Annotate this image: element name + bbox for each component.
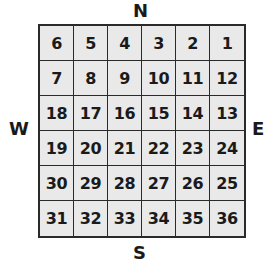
grid-cell: 5	[74, 26, 108, 61]
grid-cell: 19	[40, 131, 74, 166]
grid-cell: 18	[40, 96, 74, 131]
grid-cell: 23	[176, 131, 210, 166]
grid-cell: 30	[40, 166, 74, 201]
grid-cell: 7	[40, 61, 74, 96]
compass-west-label: W	[9, 120, 29, 138]
grid-cell: 1	[210, 26, 244, 61]
grid-cell: 16	[108, 96, 142, 131]
grid-cell: 28	[108, 166, 142, 201]
grid-cell: 4	[108, 26, 142, 61]
grid-cell: 20	[74, 131, 108, 166]
grid-cell: 6	[40, 26, 74, 61]
grid-cell: 15	[142, 96, 176, 131]
grid-cell: 8	[74, 61, 108, 96]
grid-cell: 31	[40, 201, 74, 236]
compass-south-label: S	[133, 244, 146, 262]
grid-cell: 3	[142, 26, 176, 61]
grid-cell: 12	[210, 61, 244, 96]
grid-cell: 25	[210, 166, 244, 201]
section-grid: 6 5 4 3 2 1 7 8 9 10 11 12 18 17 16 15 1…	[38, 24, 246, 238]
grid-cell: 9	[108, 61, 142, 96]
grid-cell: 22	[142, 131, 176, 166]
compass-north-label: N	[133, 2, 148, 20]
grid-cell: 32	[74, 201, 108, 236]
grid-cell: 11	[176, 61, 210, 96]
grid-cell: 10	[142, 61, 176, 96]
grid-cell: 36	[210, 201, 244, 236]
grid-cell: 34	[142, 201, 176, 236]
grid-cell: 21	[108, 131, 142, 166]
grid-cell: 13	[210, 96, 244, 131]
grid-cell: 17	[74, 96, 108, 131]
grid-cell: 26	[176, 166, 210, 201]
grid-cell: 27	[142, 166, 176, 201]
grid-cell: 2	[176, 26, 210, 61]
grid-cell: 29	[74, 166, 108, 201]
grid-cell: 35	[176, 201, 210, 236]
grid-cell: 24	[210, 131, 244, 166]
grid-cell: 14	[176, 96, 210, 131]
grid-cell: 33	[108, 201, 142, 236]
compass-east-label: E	[252, 120, 264, 138]
